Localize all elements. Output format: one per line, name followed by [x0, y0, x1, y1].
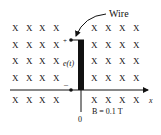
- field-into-page-mark: X: [26, 74, 33, 83]
- field-into-page-mark: X: [26, 96, 33, 105]
- field-into-page-mark: X: [91, 74, 98, 83]
- field-into-page-mark: X: [133, 24, 140, 33]
- field-into-page-mark: X: [53, 96, 60, 105]
- field-into-page-mark: X: [91, 24, 98, 33]
- field-into-page-mark: X: [91, 96, 98, 105]
- field-into-page-mark: X: [53, 57, 60, 66]
- field-into-page-mark: X: [39, 57, 46, 66]
- plus-label: +: [63, 36, 67, 46]
- field-into-page-mark: X: [26, 57, 33, 66]
- field-into-page-mark: X: [53, 74, 60, 83]
- diagram: XXXXXXXXXXXXXXXXXXXXXXXXXXXXXXXXXXXXXXXX…: [0, 0, 161, 135]
- emf-label: e(t): [63, 59, 74, 69]
- field-into-page-mark: X: [53, 41, 60, 50]
- minus-terminal: [69, 88, 73, 92]
- field-into-page-mark: X: [119, 96, 126, 105]
- wire-label: Wire: [109, 9, 129, 19]
- minus-label: –: [64, 80, 68, 90]
- field-into-page-mark: X: [133, 74, 140, 83]
- field-label: B = 0.1 T: [92, 107, 123, 117]
- field-into-page-mark: X: [105, 57, 112, 66]
- field-into-page-mark: X: [91, 41, 98, 50]
- field-into-page-mark: X: [91, 57, 98, 66]
- field-into-page-mark: X: [39, 96, 46, 105]
- field-into-page-mark: X: [39, 24, 46, 33]
- field-into-page-mark: X: [133, 57, 140, 66]
- origin-label: 0: [78, 115, 82, 125]
- field-into-page-mark: X: [119, 74, 126, 83]
- field-into-page-mark: X: [12, 74, 19, 83]
- field-into-page-mark: X: [26, 24, 33, 33]
- field-into-page-mark: X: [133, 96, 140, 105]
- field-into-page-mark: X: [12, 41, 19, 50]
- field-into-page-mark: X: [12, 57, 19, 66]
- field-into-page-mark: X: [105, 74, 112, 83]
- x-axis-label: x: [149, 96, 153, 106]
- field-into-page-mark: X: [12, 24, 19, 33]
- field-into-page-mark: X: [105, 96, 112, 105]
- field-into-page-mark: X: [105, 24, 112, 33]
- field-into-page-mark: X: [133, 41, 140, 50]
- wire-bar: [78, 40, 84, 90]
- field-into-page-mark: X: [26, 41, 33, 50]
- field-into-page-mark: X: [12, 96, 19, 105]
- field-into-page-mark: X: [39, 74, 46, 83]
- field-into-page-mark: X: [53, 24, 60, 33]
- field-into-page-mark: X: [119, 24, 126, 33]
- plus-terminal: [69, 38, 73, 42]
- field-into-page-mark: X: [119, 57, 126, 66]
- field-into-page-mark: X: [105, 41, 112, 50]
- field-into-page-mark: X: [39, 41, 46, 50]
- field-into-page-mark: X: [119, 41, 126, 50]
